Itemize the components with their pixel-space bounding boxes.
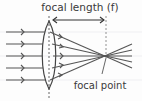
diagram-canvas: focal length (f) focal point [0, 0, 142, 101]
refracted-rays [50, 32, 132, 80]
incoming-rays [6, 29, 45, 83]
focal-point-label: focal point [74, 80, 127, 91]
focal-length-arrow [53, 17, 104, 23]
focal-length-label: focal length (f) [41, 1, 118, 13]
lens-diagram: focal length (f) focal point [0, 0, 142, 101]
focal-point-pointer [102, 58, 106, 74]
